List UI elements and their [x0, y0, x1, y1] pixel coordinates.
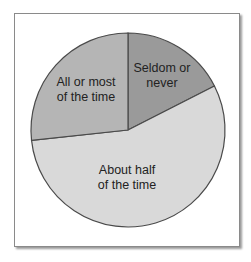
label-line: of the time	[82, 178, 172, 193]
slice-label-all-or-most: All or most of the time	[41, 75, 131, 105]
label-line: About half	[82, 163, 172, 178]
label-line: All or most	[41, 75, 131, 90]
pie-chart	[0, 0, 251, 262]
label-line: of the time	[41, 90, 131, 105]
slice-label-about-half: About half of the time	[82, 163, 172, 193]
label-line: Seldom or	[117, 61, 207, 76]
